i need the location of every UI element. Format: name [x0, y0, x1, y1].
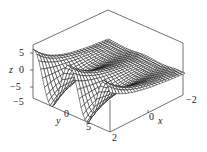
x-tick-0: 0: [149, 111, 154, 122]
surface-mesh: [33, 39, 185, 122]
z-axis-label: z: [8, 64, 13, 75]
x-tick-neg2: −2: [186, 94, 197, 105]
surface-plot: 5 0 −5 z −5 0 5 y 2 0 −2 x: [0, 0, 207, 152]
y-axis-label: y: [55, 115, 61, 126]
y-tick-5: 5: [86, 121, 91, 132]
z-axis: [30, 53, 33, 87]
z-tick-neg5: −5: [10, 81, 21, 92]
z-tick-5: 5: [19, 47, 24, 58]
y-tick-0: 0: [64, 108, 69, 119]
y-tick-neg5: −5: [13, 96, 24, 107]
z-tick-0: 0: [19, 64, 24, 75]
x-tick-2: 2: [112, 132, 117, 143]
plot-canvas: 5 0 −5 z −5 0 5 y 2 0 −2 x: [0, 0, 207, 152]
x-axis-label: x: [157, 115, 163, 126]
